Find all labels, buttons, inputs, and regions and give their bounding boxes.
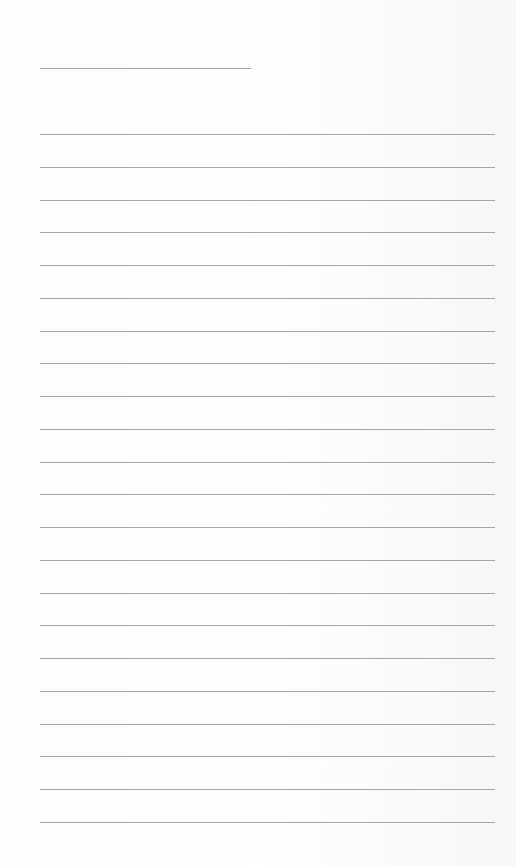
writing-line: [40, 232, 495, 233]
writing-line: [40, 822, 495, 823]
writing-line: [40, 494, 495, 495]
writing-lines-label: Writing lines: [0, 0, 1, 1]
writing-line: [40, 625, 495, 626]
writing-line: [40, 527, 495, 528]
writing-line: [40, 560, 495, 561]
writing-line: [40, 363, 495, 364]
writing-line: [40, 756, 495, 757]
writing-line: [40, 593, 495, 594]
writing-line: [40, 429, 495, 430]
writing-line: [40, 265, 495, 266]
writing-line: [40, 167, 495, 168]
writing-line: [40, 691, 495, 692]
title-line: [40, 68, 251, 69]
writing-line: [40, 789, 495, 790]
writing-line: [40, 298, 495, 299]
writing-line: [40, 134, 495, 135]
writing-line: [40, 331, 495, 332]
writing-line: [40, 462, 495, 463]
lined-paper-page: Title line Writing lines: [0, 0, 516, 866]
writing-line: [40, 200, 495, 201]
title-line-label: Title line: [0, 0, 1, 1]
writing-line: [40, 396, 495, 397]
writing-line: [40, 724, 495, 725]
writing-line: [40, 658, 495, 659]
